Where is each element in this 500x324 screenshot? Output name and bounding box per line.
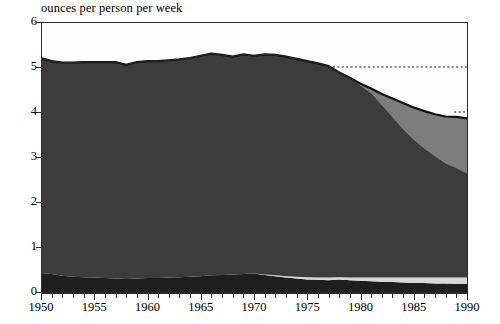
- x-tick-label-1990: 1990: [442, 301, 492, 314]
- x-tick-1964: [190, 294, 191, 298]
- x-tick-label-1955: 1955: [69, 301, 119, 314]
- x-tick-1987: [435, 294, 436, 298]
- x-tick-label-1965: 1965: [176, 301, 226, 314]
- x-tick-label-1950: 1950: [16, 301, 66, 314]
- y-tick-label-5: 5: [7, 60, 37, 73]
- x-tick-1953: [73, 294, 74, 298]
- x-tick-1954: [84, 294, 85, 298]
- x-tick-1962: [169, 294, 170, 298]
- x-tick-1957: [116, 294, 117, 298]
- x-tick-1979: [350, 294, 351, 298]
- x-tick-1967: [222, 294, 223, 298]
- x-tick-1966: [211, 294, 212, 298]
- x-tick-1969: [243, 294, 244, 298]
- x-tick-label-1960: 1960: [123, 301, 173, 314]
- y-tick-label-3: 3: [7, 150, 37, 163]
- y-axis-title: ounces per person per week: [41, 1, 182, 15]
- x-tick-label-1970: 1970: [229, 301, 279, 314]
- axis-line-right: [467, 22, 468, 293]
- x-tick-1952: [62, 294, 63, 298]
- x-tick-1956: [105, 294, 106, 298]
- area-main-dark-area: [41, 54, 467, 279]
- y-tick-label-6: 6: [7, 15, 37, 28]
- x-tick-1974: [297, 294, 298, 298]
- stacked-area-series: [41, 22, 467, 292]
- x-tick-1983: [392, 294, 393, 298]
- y-tick-label-2: 2: [7, 195, 37, 208]
- x-tick-1963: [179, 294, 180, 298]
- x-tick-1984: [403, 294, 404, 298]
- x-tick-1986: [424, 294, 425, 298]
- x-tick-label-1980: 1980: [336, 301, 386, 314]
- axis-line-top: [41, 22, 468, 23]
- x-tick-1977: [329, 294, 330, 298]
- x-tick-label-1975: 1975: [282, 301, 332, 314]
- x-tick-1971: [265, 294, 266, 298]
- x-tick-1976: [318, 294, 319, 298]
- x-tick-1989: [456, 294, 457, 298]
- axis-line-left: [41, 22, 42, 293]
- x-tick-1961: [158, 294, 159, 298]
- x-tick-1988: [446, 294, 447, 298]
- y-tick-label-1: 1: [7, 240, 37, 253]
- x-tick-1959: [137, 294, 138, 298]
- y-tick-label-4: 4: [7, 105, 37, 118]
- x-tick-1972: [275, 294, 276, 298]
- x-tick-label-1985: 1985: [389, 301, 439, 314]
- x-tick-1978: [339, 294, 340, 298]
- x-tick-1951: [52, 294, 53, 298]
- x-tick-1973: [286, 294, 287, 298]
- x-tick-1981: [371, 294, 372, 298]
- x-tick-1958: [126, 294, 127, 298]
- y-tick-label-0: 0: [7, 285, 37, 298]
- x-tick-1968: [233, 294, 234, 298]
- chart-figure: ounces per person per week 6543210 19501…: [0, 0, 500, 324]
- x-tick-1982: [382, 294, 383, 298]
